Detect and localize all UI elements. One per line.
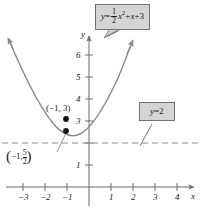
y-tick-label-5: 5: [76, 73, 81, 82]
equation-callout: y=12x2+x+3: [95, 4, 150, 30]
equation-fraction: 12: [111, 8, 117, 26]
curve-right-arrow: [127, 40, 133, 54]
parabola-curve: [9, 40, 132, 136]
equation-constant: 3: [139, 11, 144, 21]
x-tick-label--1: −1: [62, 193, 73, 202]
line-callout: y=2: [139, 102, 175, 121]
x-tick-label-2: 2: [131, 193, 136, 202]
graph-figure: y=12x2+x+3 y=2 (−1, 3) (−1,52) −3 −2 −1 …: [0, 0, 202, 215]
x-tick-label-1: 1: [109, 193, 114, 202]
curve-left-arrow: [8, 38, 13, 49]
y-tick-label-3: 3: [76, 117, 81, 126]
y-tick-label-6: 6: [76, 51, 81, 60]
point-label-b: (−1,52): [6, 149, 32, 166]
point-marker-a: [63, 116, 69, 122]
point-b-x: −1,: [11, 151, 23, 161]
point-label-a: (−1, 3): [46, 104, 71, 113]
x-tick-label--3: −3: [18, 193, 29, 202]
y-tick-label-4: 4: [76, 95, 81, 104]
line-callout-rhs: 2: [159, 106, 164, 116]
equation-equals: =: [105, 11, 110, 21]
x-tick-label-4: 4: [175, 193, 180, 202]
y-axis-label: y: [81, 30, 85, 39]
x-axis-label: x: [191, 192, 195, 201]
x-tick-label--2: −2: [40, 193, 51, 202]
x-tick-label-3: 3: [153, 193, 158, 202]
fraction-denominator: 2: [111, 17, 117, 25]
point-marker-b: [63, 128, 69, 134]
y-tick-label-1: 1: [76, 161, 81, 170]
point-b-close-paren: ): [27, 148, 32, 164]
